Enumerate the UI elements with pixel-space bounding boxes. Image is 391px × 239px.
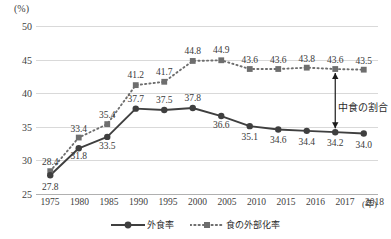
data-point-gaishokuritsu [275, 126, 281, 132]
data-point-gaishokuritsu [47, 172, 53, 178]
data-point-gaishokuritsu [247, 123, 253, 129]
data-label-gaishokuritsu: 27.8 [33, 182, 67, 192]
annotation-arrow-head [332, 73, 338, 79]
data-point-gaishokuritsu [161, 107, 167, 113]
data-point-shoku-no-gaibukaritsu [361, 67, 367, 73]
chart-legend: 外食率 食の外部化率 [0, 218, 391, 231]
legend-label-gaishokuritsu: 外食率 [147, 220, 174, 230]
data-point-shoku-no-gaibukaritsu [304, 65, 310, 71]
legend-label-shoku-no-gaibukaritsu: 食の外部化率 [226, 220, 280, 230]
data-point-gaishokuritsu [332, 129, 338, 135]
data-label-shoku-no-gaibukaritsu: 33.4 [62, 124, 96, 134]
data-label-gaishokuritsu: 34.0 [347, 140, 381, 150]
legend-item-shoku-no-gaibukaritsu[interactable]: 食の外部化率 [190, 218, 280, 231]
data-point-shoku-no-gaibukaritsu [190, 58, 196, 64]
data-point-gaishokuritsu [104, 134, 110, 140]
data-point-gaishokuritsu [304, 128, 310, 134]
data-point-gaishokuritsu [218, 113, 224, 119]
data-point-shoku-no-gaibukaritsu [275, 66, 281, 72]
series-layer [0, 0, 391, 239]
legend-item-gaishokuritsu[interactable]: 外食率 [111, 218, 174, 231]
data-point-shoku-no-gaibukaritsu [218, 57, 224, 63]
data-point-gaishokuritsu [190, 105, 196, 111]
data-point-shoku-no-gaibukaritsu [247, 66, 253, 72]
data-point-shoku-no-gaibukaritsu [104, 121, 110, 127]
data-label-shoku-no-gaibukaritsu: 28.4 [33, 157, 67, 167]
data-point-gaishokuritsu [361, 130, 367, 136]
data-label-gaishokuritsu: 33.5 [90, 141, 124, 151]
data-point-shoku-no-gaibukaritsu [133, 82, 139, 88]
annotation-label-nakashoku: 中食の割合 [338, 99, 388, 114]
chart-container: (%) 50 45 40 35 30 25 1975 1980 1985 199… [0, 0, 391, 239]
data-point-shoku-no-gaibukaritsu [76, 135, 82, 141]
data-label-shoku-no-gaibukaritsu: 41.7 [147, 67, 181, 77]
data-point-shoku-no-gaibukaritsu [332, 66, 338, 72]
legend-swatch-solid-line-icon [111, 220, 145, 230]
data-point-gaishokuritsu [133, 105, 139, 111]
data-label-shoku-no-gaibukaritsu: 43.5 [347, 56, 381, 66]
annotation-arrow-head [332, 122, 338, 128]
data-label-gaishokuritsu: 37.8 [176, 93, 210, 103]
data-label-shoku-no-gaibukaritsu: 44.9 [204, 45, 238, 55]
legend-swatch-dotted-line-icon [190, 220, 224, 230]
data-label-shoku-no-gaibukaritsu: 35.4 [90, 110, 124, 120]
data-label-gaishokuritsu: 36.6 [204, 120, 238, 130]
data-point-shoku-no-gaibukaritsu [161, 79, 167, 85]
